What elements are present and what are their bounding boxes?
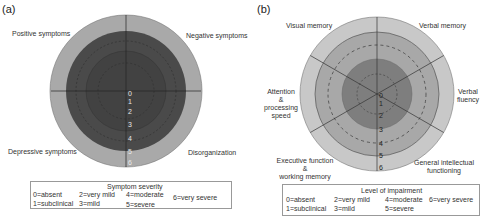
svg-text:2: 2 xyxy=(128,108,132,115)
svg-text:6: 6 xyxy=(379,164,383,171)
panel-a-legend: Symptom severity 0=absent 1=subclinical … xyxy=(30,181,232,209)
legend-item: 1=subclinical xyxy=(33,200,73,207)
legend-item: 5=severe xyxy=(126,201,155,208)
svg-text:1: 1 xyxy=(128,98,132,105)
legend-title: Symptom severity xyxy=(107,183,163,190)
legend-item: 4=moderate xyxy=(126,191,164,198)
legend-item: 0=absent xyxy=(286,196,315,203)
panel-b-wheel: 0 1 2 3 4 5 6 xyxy=(300,17,454,171)
legend-item: 5=severe xyxy=(385,205,414,212)
legend-item: 0=absent xyxy=(33,191,62,198)
legend-item: 2=very mild xyxy=(79,191,115,198)
panel-b-legend: Level of impairment 0=absent 1=subclinic… xyxy=(282,184,480,216)
axis-attention-processing-speed: Attention & processing speed xyxy=(262,88,300,120)
axis-visual-memory: Visual memory xyxy=(286,22,332,30)
legend-item: 6=very severe xyxy=(429,196,473,203)
svg-text:4: 4 xyxy=(128,135,132,142)
legend-item: 3=mild xyxy=(334,205,355,212)
svg-text:1: 1 xyxy=(379,100,383,107)
legend-title: Level of impairment xyxy=(361,187,422,194)
svg-text:4: 4 xyxy=(379,140,383,147)
axis-verbal-fluency: Verbal fluency xyxy=(451,88,485,104)
axis-disorganization: Disorganization xyxy=(188,149,236,157)
legend-item: 1=subclinical xyxy=(286,205,326,212)
svg-text:5: 5 xyxy=(379,152,383,159)
axis-verbal-memory: Verbal memory xyxy=(419,22,466,30)
axis-positive-symptoms: Positive symptoms xyxy=(12,30,70,38)
svg-text:0: 0 xyxy=(379,92,383,99)
axis-negative-symptoms: Negative symptoms xyxy=(186,32,247,40)
legend-item: 6=very severe xyxy=(173,194,217,201)
legend-item: 3=mild xyxy=(79,200,100,207)
axis-executive-function-working-memory: Executive function & working memory xyxy=(270,157,340,181)
svg-text:0: 0 xyxy=(128,90,132,97)
legend-item: 2=very mild xyxy=(334,196,370,203)
svg-text:6: 6 xyxy=(128,159,132,166)
svg-text:3: 3 xyxy=(128,121,132,128)
svg-text:3: 3 xyxy=(379,126,383,133)
svg-text:5: 5 xyxy=(128,148,132,155)
panel-a-wheel: 0 1 2 3 4 5 6 xyxy=(50,15,202,167)
axis-depressive-symptoms: Depressive symptoms xyxy=(8,148,77,156)
axis-general-intellectual-functioning: General intellectual functioning xyxy=(409,159,479,175)
legend-item: 4=moderate xyxy=(385,196,423,203)
svg-text:2: 2 xyxy=(379,112,383,119)
